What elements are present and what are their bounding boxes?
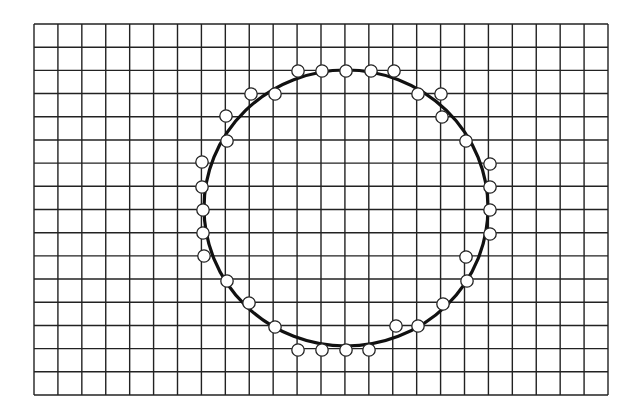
data-point-marker (245, 88, 257, 100)
data-point-marker (461, 275, 473, 287)
data-point-marker (292, 65, 304, 77)
data-point-marker (412, 88, 424, 100)
data-point-marker (484, 181, 496, 193)
data-point-marker (436, 111, 448, 123)
data-point-marker (198, 250, 210, 262)
data-point-marker (292, 344, 304, 356)
data-point-marker (220, 110, 232, 122)
data-point-marker (196, 181, 208, 193)
grid (34, 24, 608, 395)
data-point-marker (340, 65, 352, 77)
data-point-marker (316, 65, 328, 77)
data-point-marker (316, 344, 328, 356)
data-point-marker (390, 320, 402, 332)
data-point-marker (269, 88, 281, 100)
data-point-marker (221, 135, 233, 147)
data-point-marker (412, 320, 424, 332)
data-point-marker (365, 65, 377, 77)
data-point-marker (340, 344, 352, 356)
data-point-marker (197, 227, 209, 239)
data-point-marker (221, 275, 233, 287)
data-point-marker (197, 204, 209, 216)
data-point-marker (460, 251, 472, 263)
grid-circle-diagram (0, 0, 637, 413)
data-point-marker (460, 135, 472, 147)
data-point-marker (196, 156, 208, 168)
data-point-marker (484, 228, 496, 240)
data-point-marker (388, 65, 400, 77)
data-point-marker (484, 158, 496, 170)
data-point-marker (437, 298, 449, 310)
sample-points (196, 65, 496, 356)
data-point-marker (243, 297, 255, 309)
data-point-marker (363, 344, 375, 356)
data-point-marker (435, 88, 447, 100)
data-point-marker (484, 204, 496, 216)
diagram-canvas (0, 0, 637, 413)
data-point-marker (269, 321, 281, 333)
